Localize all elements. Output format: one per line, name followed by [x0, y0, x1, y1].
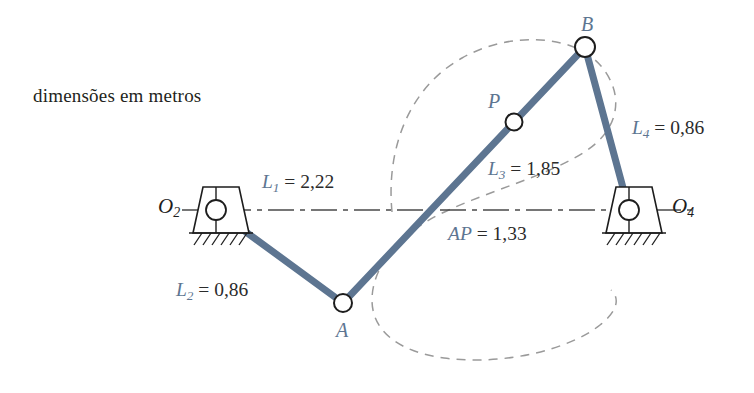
- ground-hatch-o2: [194, 233, 247, 245]
- dimension-l4: L4 = 0,86: [632, 118, 704, 140]
- dimension-ap-equals: =: [472, 223, 493, 244]
- label-p: P: [488, 91, 500, 111]
- dimension-ap-symbol: AP: [448, 223, 472, 244]
- ground-support-o4: [602, 187, 666, 245]
- fourbar-linkage-figure: dimensões em metros L1 = 2,22 L2 = 0,86 …: [0, 0, 754, 393]
- dimension-l3-value: 1,85: [526, 158, 560, 179]
- link-4: [585, 47, 629, 210]
- label-o4-subscript: 4: [687, 205, 694, 220]
- pivot-circle-o2: [206, 200, 226, 220]
- joint-a: [334, 294, 352, 312]
- dimension-ap-value: 1,33: [493, 223, 527, 244]
- linkage-drawing: [0, 0, 754, 393]
- joint-p: [506, 114, 523, 131]
- label-o4: O4: [672, 196, 694, 220]
- label-a: A: [336, 320, 348, 340]
- dimension-l3: L3 = 1,85: [488, 159, 560, 181]
- dimension-l1: L1 = 2,22: [262, 172, 334, 194]
- dimension-l1-value: 2,22: [300, 171, 334, 192]
- pivot-circle-o4: [619, 200, 639, 220]
- label-o2-symbol: O: [158, 194, 173, 218]
- dimension-ap: AP = 1,33: [448, 224, 527, 244]
- ground-support-o2: [189, 187, 253, 245]
- dimension-l1-symbol: L: [262, 171, 273, 192]
- label-o2-subscript: 2: [173, 205, 180, 220]
- coupler-curve: [372, 40, 616, 360]
- dimension-l1-equals: =: [279, 171, 300, 192]
- joint-b: [575, 37, 595, 57]
- label-o4-symbol: O: [672, 194, 687, 218]
- dimension-l3-symbol: L: [488, 158, 499, 179]
- label-b: B: [581, 14, 593, 34]
- dimension-l2-value: 0,86: [214, 279, 248, 300]
- dimension-l4-equals: =: [649, 117, 670, 138]
- dimension-l3-equals: =: [505, 158, 526, 179]
- dimension-l4-value: 0,86: [670, 117, 704, 138]
- dimension-l4-symbol: L: [632, 117, 643, 138]
- dimension-l2-equals: =: [193, 279, 214, 300]
- units-note: dimensões em metros: [33, 86, 201, 105]
- dimension-l2: L2 = 0,86: [176, 280, 248, 302]
- ground-hatch-o4: [607, 233, 660, 245]
- label-o2: O2: [158, 196, 180, 220]
- dimension-l2-symbol: L: [176, 279, 187, 300]
